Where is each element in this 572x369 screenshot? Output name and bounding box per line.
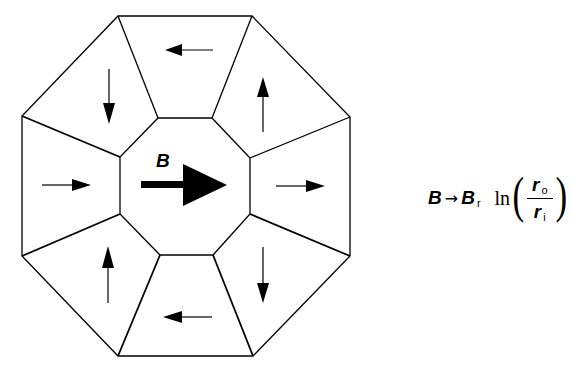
field-arrow-right-icon <box>141 164 227 206</box>
fraction-bar <box>527 198 553 199</box>
segment-divider <box>22 214 120 256</box>
center-field-label: B <box>156 150 170 172</box>
maps-to-arrow-icon: → <box>445 189 458 208</box>
segment-divider <box>118 16 158 118</box>
outer-radius-subscript: o <box>541 184 547 196</box>
arrow-right-icon <box>42 179 91 191</box>
arrow-left-icon <box>165 44 213 56</box>
arrow-right-icon <box>276 180 325 192</box>
scaling-formula: B → Br ln ( ro ri ) <box>428 168 569 228</box>
arrow-up-icon <box>257 77 269 132</box>
segment-divider <box>250 214 350 256</box>
segment-divider <box>22 116 120 157</box>
radius-ratio-fraction: ro ri <box>527 174 553 223</box>
formula-lhs: B <box>428 187 442 209</box>
formula-ln: ln <box>495 187 511 210</box>
arrow-down-icon <box>103 69 115 124</box>
arrow-left-icon <box>163 311 212 323</box>
arrow-down-icon <box>257 247 269 303</box>
open-paren: ( <box>513 170 525 220</box>
segment-divider <box>212 16 252 118</box>
segment-divider <box>213 255 253 356</box>
arrow-up-icon <box>102 246 114 303</box>
segment-divider <box>118 255 160 356</box>
formula-remanence: B <box>461 187 475 209</box>
formula-remanence-subscript: r <box>477 197 481 209</box>
inner-radius-subscript: i <box>543 211 545 223</box>
outer-radius-symbol: r <box>532 174 539 196</box>
inner-radius-symbol: r <box>534 201 541 223</box>
close-paren: ) <box>555 170 567 220</box>
segment-divider <box>250 117 350 158</box>
